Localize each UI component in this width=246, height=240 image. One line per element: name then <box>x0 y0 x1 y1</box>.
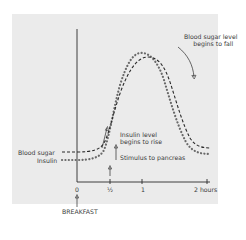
tick-label-1: 1 <box>141 186 145 193</box>
tick-label-2-hours: 2 hours <box>194 186 217 193</box>
fall-arrow <box>178 47 194 77</box>
tick-label-half: ½ <box>107 186 113 193</box>
insulin-legend-label: Insulin <box>37 157 57 164</box>
stimulus-annotation: Stimulus to pancreas <box>120 154 185 161</box>
fall-annotation: Blood sugar level begins to fall <box>184 33 238 47</box>
fall-annotation-line2: begins to fall <box>189 40 238 47</box>
tick-label-0: 0 <box>75 186 79 193</box>
rise-annotation-line1: Insulin level <box>120 131 162 138</box>
fall-annotation-line1: Blood sugar level <box>184 33 238 40</box>
breakfast-label: BREAKFAST <box>62 208 98 215</box>
rise-annotation: Insulin level begins to rise <box>120 131 162 145</box>
rise-annotation-line2: begins to rise <box>120 138 162 145</box>
blood-sugar-legend-label: Blood sugar <box>18 149 55 156</box>
